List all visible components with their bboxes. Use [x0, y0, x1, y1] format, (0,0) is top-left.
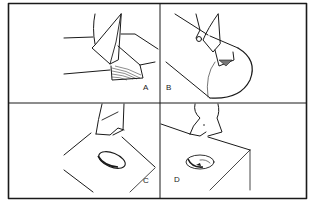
panel-c-illustration: [64, 104, 155, 192]
panel-label-c: C: [143, 176, 149, 185]
panel-label-a: A: [143, 83, 148, 92]
outer-frame: [9, 4, 307, 199]
drilling-diagram: [0, 0, 310, 203]
panel-label-d: D: [174, 175, 180, 184]
panel-a-illustration: [64, 14, 158, 80]
panel-label-b: B: [166, 83, 171, 92]
panel-b-illustration: [166, 14, 252, 98]
